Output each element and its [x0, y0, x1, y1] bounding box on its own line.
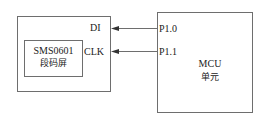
connection-arrows: [0, 0, 264, 121]
arrow-p10-to-di: [111, 26, 157, 31]
arrowhead-icon: [111, 26, 119, 31]
arrowhead-icon: [111, 49, 119, 54]
arrow-p11-to-clk: [111, 49, 157, 54]
